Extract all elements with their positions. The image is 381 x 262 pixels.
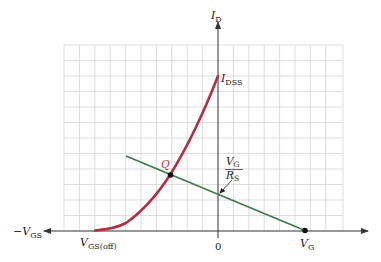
origin-label: 0 bbox=[215, 241, 221, 252]
negative-vgs-axis-label: −VGS bbox=[13, 225, 42, 240]
vg-label: VG bbox=[300, 237, 314, 252]
grid bbox=[64, 45, 343, 231]
q-point-label: Q bbox=[161, 158, 170, 171]
svg-text:RS: RS bbox=[225, 169, 239, 183]
q-point bbox=[168, 172, 174, 178]
load-line bbox=[126, 156, 305, 231]
vg-rs-pointer-arrow bbox=[220, 180, 232, 193]
vgs-off-label: VGS(off) bbox=[80, 236, 117, 251]
svg-text:VG: VG bbox=[226, 155, 240, 169]
idss-label: IDSS bbox=[220, 72, 243, 87]
jfet-bias-diagram: ID IDSS Q VG RS −VGS VGS(off) 0 VG bbox=[0, 0, 381, 262]
vg-point bbox=[302, 228, 308, 234]
y-axis-label: ID bbox=[210, 9, 222, 24]
